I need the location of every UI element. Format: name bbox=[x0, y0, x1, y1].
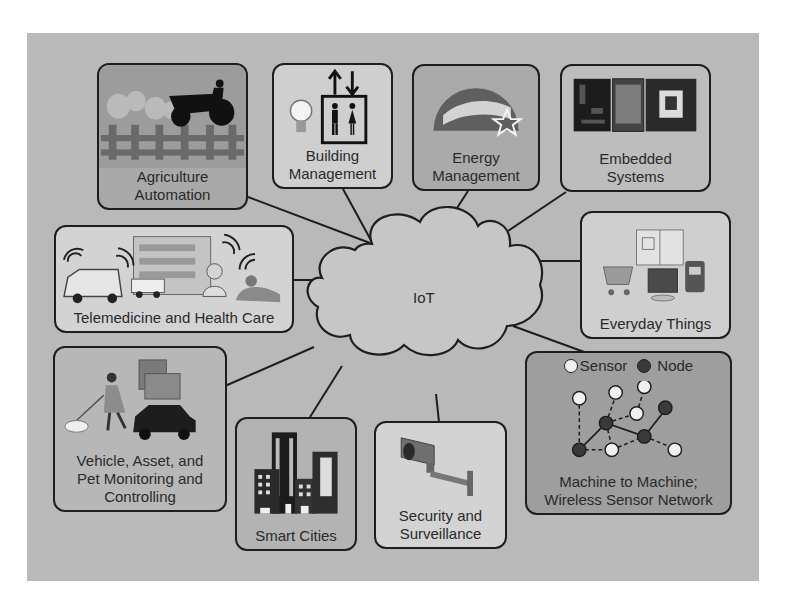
node-everyday[interactable]: Everyday Things bbox=[580, 211, 731, 339]
node bbox=[638, 429, 651, 442]
elevator-lightbulb-icon bbox=[274, 65, 391, 147]
node-agriculture[interactable]: Agriculture Automation bbox=[97, 63, 248, 210]
node bbox=[573, 443, 586, 456]
energy-star-icon bbox=[414, 66, 538, 149]
sensor bbox=[605, 443, 618, 456]
node-label: Energy Management bbox=[430, 149, 522, 189]
link-security bbox=[436, 394, 439, 422]
circuit-board-chip-icon bbox=[562, 66, 709, 150]
link-smartcities bbox=[310, 366, 342, 417]
security-camera-icon bbox=[376, 423, 505, 507]
sensor-legend-icon bbox=[564, 359, 578, 373]
link-m2m bbox=[513, 326, 587, 353]
node-label: Building Management bbox=[287, 147, 379, 187]
tractor-fence-icon bbox=[99, 65, 246, 168]
sensor bbox=[668, 443, 681, 456]
sensor-legend-label: Sensor bbox=[580, 357, 628, 374]
node-label: Everyday Things bbox=[598, 315, 713, 337]
m2m-legend: Sensor Node bbox=[564, 353, 693, 374]
sensor bbox=[609, 385, 622, 398]
sensor bbox=[573, 391, 586, 404]
city-buildings-icon bbox=[237, 419, 355, 527]
node bbox=[659, 401, 672, 414]
link-building bbox=[343, 189, 373, 244]
node-label: Agriculture Automation bbox=[133, 168, 213, 208]
appliances-cart-icon bbox=[582, 213, 729, 315]
sensor bbox=[630, 406, 643, 419]
node-embedded[interactable]: Embedded Systems bbox=[560, 64, 711, 192]
node-label: Telemedicine and Health Care bbox=[72, 309, 277, 331]
hub-label: IoT bbox=[413, 289, 435, 306]
node bbox=[599, 416, 612, 429]
node-label: Smart Cities bbox=[253, 527, 339, 549]
sensor-network-icon bbox=[525, 381, 732, 467]
link-vehicle bbox=[225, 347, 314, 386]
node-label: Security and Surveillance bbox=[397, 507, 484, 547]
node-vehicle[interactable]: Vehicle, Asset, and Pet Monitoring and C… bbox=[53, 346, 227, 512]
node-label: Vehicle, Asset, and Pet Monitoring and C… bbox=[75, 452, 206, 510]
node-security[interactable]: Security and Surveillance bbox=[374, 421, 507, 549]
node-energy[interactable]: Energy Management bbox=[412, 64, 540, 191]
node-legend-label: Node bbox=[657, 357, 693, 374]
node-label: Machine to Machine; Wireless Sensor Netw… bbox=[542, 473, 714, 513]
node-building[interactable]: Building Management bbox=[272, 63, 393, 189]
node-legend-icon bbox=[637, 359, 651, 373]
node-label: Embedded Systems bbox=[597, 150, 674, 190]
node-smartcities[interactable]: Smart Cities bbox=[235, 417, 357, 551]
node-m2m[interactable]: Sensor Node bbox=[525, 351, 732, 515]
link-embedded bbox=[508, 192, 566, 231]
cloud-icon bbox=[308, 207, 542, 355]
sensor bbox=[638, 381, 651, 393]
ambulance-hospital-icon bbox=[56, 227, 292, 309]
dog-walker-car-icon bbox=[55, 348, 225, 452]
node-telemedicine[interactable]: Telemedicine and Health Care bbox=[54, 225, 294, 333]
